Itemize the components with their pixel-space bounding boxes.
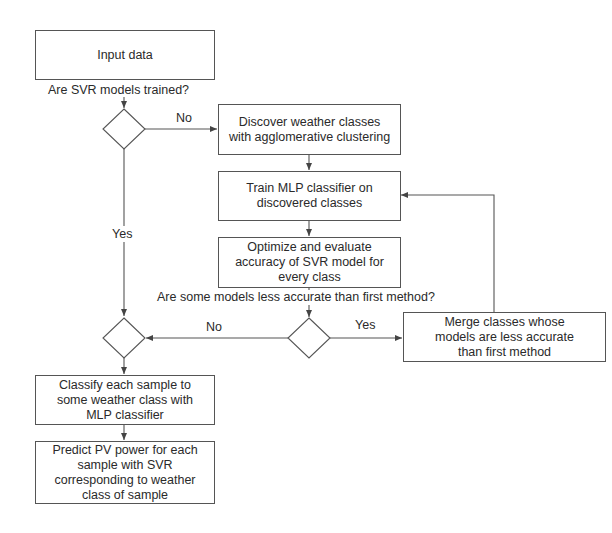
- question-svr-trained: Are SVR models trained?: [48, 83, 189, 97]
- discover-classes-box: Discover weather classes with agglomerat…: [218, 104, 401, 155]
- question-less-accurate: Are some models less accurate than first…: [157, 290, 435, 304]
- decision-diamond-join: [103, 318, 145, 358]
- decision-diamond-q1: [103, 109, 145, 149]
- classify-sample-box: Classify each sample to some weather cla…: [35, 375, 215, 425]
- optimize-svr-box: Optimize and evaluate accuracy of SVR mo…: [218, 237, 401, 288]
- q2-yes-label: Yes: [355, 318, 375, 332]
- decision-diamond-q2: [288, 318, 330, 358]
- q1-no-label: No: [176, 111, 192, 125]
- q2-no-label: No: [206, 320, 222, 334]
- predict-pv-box: Predict PV power for each sample with SV…: [35, 441, 215, 504]
- input-data-box: Input data: [35, 30, 215, 80]
- flowchart: Input data Are SVR models trained? No Ye…: [0, 0, 612, 533]
- merge-classes-box: Merge classes whose models are less accu…: [403, 312, 606, 362]
- q1-yes-label: Yes: [112, 226, 132, 242]
- train-mlp-box: Train MLP classifier on discovered class…: [218, 171, 401, 221]
